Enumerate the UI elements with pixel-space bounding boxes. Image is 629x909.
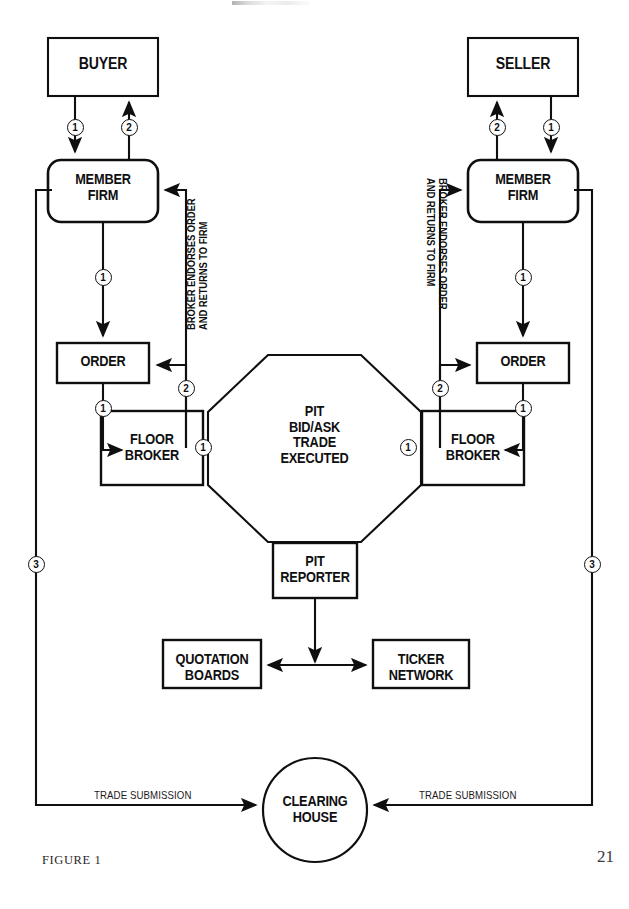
step-badge-firm-to-order-right: 1 xyxy=(515,269,532,286)
label-member-firm-right: MEMBER FIRM xyxy=(475,172,572,203)
label-ticker-network: TICKER NETWORK xyxy=(379,652,463,683)
step-badge-buyer-to-firm: 1 xyxy=(67,119,84,136)
annotation-broker-endorses-right: BROKER ENDORSES ORDER AND RETURNS TO FIR… xyxy=(425,178,449,309)
step-badge-seller-to-firm: 1 xyxy=(543,119,560,136)
label-pit-reporter: PIT REPORTER xyxy=(280,554,350,585)
label-floor-broker-right: FLOOR BROKER xyxy=(428,432,518,463)
step-badge-clearing-left: 3 xyxy=(28,556,45,573)
step-badge-clearing-right: 3 xyxy=(584,556,601,573)
step-badge-endorse-right: 2 xyxy=(432,380,449,397)
step-badge-broker-to-pit-right: 1 xyxy=(400,439,417,456)
label-buyer: BUYER xyxy=(55,55,152,72)
step-badge-order-to-broker-left: 1 xyxy=(95,400,112,417)
label-seller: SELLER xyxy=(475,55,572,72)
step-badge-endorse-left: 2 xyxy=(178,380,195,397)
label-quotation-boards: QUOTATION BOARDS xyxy=(169,652,255,683)
annotation-trade-submission-right: TRADE SUBMISSION xyxy=(419,789,517,801)
annotation-trade-submission-left: TRADE SUBMISSION xyxy=(94,789,192,801)
annotation-broker-endorses-left: BROKER ENDORSES ORDER AND RETURNS TO FIR… xyxy=(186,199,210,330)
label-clearing-house: CLEARING HOUSE xyxy=(280,794,350,825)
step-badge-firm-to-seller: 2 xyxy=(489,119,506,136)
label-order-left: ORDER xyxy=(63,354,144,370)
page-number: 21 xyxy=(597,847,614,867)
label-floor-broker-left: FLOOR BROKER xyxy=(107,432,197,463)
path-clearing-left xyxy=(36,190,256,805)
label-pit: PIT BID/ASK TRADE EXECUTED xyxy=(265,404,364,467)
label-member-firm-left: MEMBER FIRM xyxy=(55,172,152,203)
figure-canvas: BUYER SELLER MEMBER FIRM MEMBER FIRM ORD… xyxy=(0,0,629,909)
path-endorse-left-up xyxy=(165,190,186,448)
label-order-right: ORDER xyxy=(483,354,564,370)
step-badge-firm-to-buyer: 2 xyxy=(121,119,138,136)
step-badge-firm-to-order-left: 1 xyxy=(95,269,112,286)
step-badge-order-to-broker-right: 1 xyxy=(515,400,532,417)
step-badge-broker-to-pit-left: 1 xyxy=(195,439,212,456)
figure-caption: FIGURE 1 xyxy=(42,853,101,868)
